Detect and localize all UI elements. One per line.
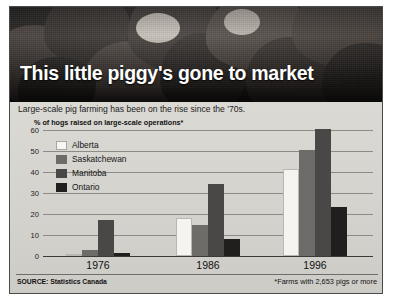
bar-manitoba-1986 [208,184,224,256]
chart-legend: Alberta Saskatchewan Manitoba Ontario [56,138,176,194]
x-tick-label-1996: 1996 [303,259,326,271]
y-tick-label-30: 30 [31,189,39,198]
x-tick-label-1976: 1976 [86,259,109,271]
bar-saskatchewan-1986 [192,225,208,256]
legend-item-ontario: Ontario [56,180,176,194]
deck-subtitle: Large-scale pig farming has been on the … [18,104,245,114]
footnote: *Farms with 2,653 pigs or more [274,277,377,286]
legend-swatch-manitoba [56,169,67,178]
y-tick-label-20: 20 [31,210,39,219]
bar-alberta-1996 [283,169,299,256]
legend-swatch-alberta [56,141,67,150]
legend-swatch-ontario [56,183,67,192]
y-tick-label-0: 0 [35,252,39,261]
y-tick-label-40: 40 [31,168,39,177]
pigs-photograph [10,7,383,102]
legend-label-alberta: Alberta [72,140,99,150]
y-tick-label-10: 10 [31,231,39,240]
y-axis-caption: % of hogs raised on large-scale operatio… [34,118,183,127]
infographic-frame: This little piggy's gone to market Large… [9,6,383,294]
legend-item-alberta: Alberta [56,138,176,152]
bar-alberta-1986 [176,218,192,256]
source-note: SOURCE: Statistics Canada [17,278,107,285]
legend-item-manitoba: Manitoba [56,166,176,180]
chart-panel: Large-scale pig farming has been on the … [10,102,383,294]
x-axis-baseline [43,256,373,257]
y-tick-label-50: 50 [31,147,39,156]
bar-ontario-1996 [331,207,347,256]
page-title: This little piggy's gone to market [20,64,360,84]
legend-label-manitoba: Manitoba [72,168,106,178]
x-tick-label-1986: 1986 [196,259,219,271]
y-tick-label-60: 60 [31,126,39,135]
bar-manitoba-1976 [98,220,114,256]
bar-ontario-1986 [224,239,240,256]
bar-saskatchewan-1996 [299,150,315,256]
legend-label-ontario: Ontario [72,182,99,192]
legend-swatch-saskatchewan [56,155,67,164]
legend-item-saskatchewan: Saskatchewan [56,152,176,166]
legend-label-saskatchewan: Saskatchewan [72,154,126,164]
footer-divider [16,274,378,275]
bar-manitoba-1996 [315,129,331,256]
